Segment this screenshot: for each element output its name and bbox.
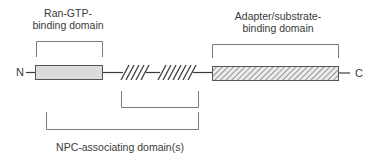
npc-inner-bracket bbox=[122, 91, 199, 108]
n-terminus-label: N bbox=[14, 66, 26, 78]
adapter-label-line2: binding domain bbox=[218, 22, 338, 34]
ran-gtp-bracket bbox=[37, 42, 103, 58]
adapter-bracket bbox=[213, 45, 339, 59]
repeat-slashes-2 bbox=[158, 65, 196, 80]
ran-gtp-label-line2: binding domain bbox=[18, 19, 118, 31]
npc-label: NPC-associating domain(s) bbox=[40, 141, 200, 153]
npc-outer-bracket bbox=[47, 112, 199, 130]
ran-gtp-label-line1: Ran-GTP- bbox=[18, 7, 118, 19]
repeat-slashes-1 bbox=[121, 65, 149, 80]
ran-gtp-binding-domain-box bbox=[36, 66, 103, 80]
adapter-substrate-binding-domain-box bbox=[213, 67, 339, 81]
ran-gtp-label: Ran-GTP- binding domain bbox=[18, 7, 118, 31]
adapter-label-line1: Adapter/substrate- bbox=[218, 10, 338, 22]
c-terminus-label: C bbox=[352, 67, 366, 79]
adapter-label: Adapter/substrate- binding domain bbox=[218, 10, 338, 34]
